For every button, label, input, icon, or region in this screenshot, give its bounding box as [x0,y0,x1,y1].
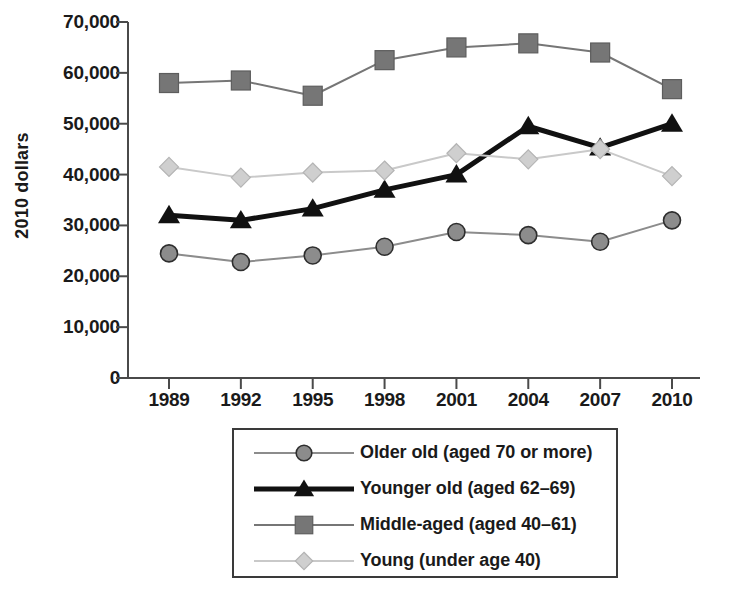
diamond-marker [295,552,312,569]
legend-item[interactable]: Middle-aged (aged 40–61) [234,506,616,543]
legend-sample-glyph [248,507,360,543]
diamond-marker [160,157,179,176]
circle-marker [448,224,465,241]
square-marker [519,34,538,53]
legend-swatch [248,507,360,543]
legend-label: Young (under age 40) [360,550,541,571]
square-marker [591,43,610,62]
circle-marker [376,238,393,255]
diamond-marker [303,163,322,182]
square-marker [231,71,250,90]
diamond-marker [591,140,610,159]
legend-item[interactable]: Younger old (aged 62–69) [234,470,616,507]
circle-marker [161,245,178,262]
square-marker [663,80,682,99]
legend-swatch [248,543,360,579]
chart-figure: 2010 dollars 70,00060,00050,00040,00030,… [0,0,737,591]
chart-legend: Older old (aged 70 or more)Younger old (… [232,428,618,578]
legend-swatch [248,471,360,507]
square-marker [295,516,312,533]
circle-marker [664,212,681,229]
circle-marker [520,227,537,244]
square-marker [375,51,394,70]
legend-label: Middle-aged (aged 40–61) [360,514,577,535]
triangle-marker [517,116,539,134]
legend-swatch [248,435,360,471]
legend-sample-glyph [248,471,360,507]
diamond-marker [375,161,394,180]
circle-marker [304,247,321,264]
diamond-marker [231,168,250,187]
square-marker [303,86,322,105]
legend-label: Younger old (aged 62–69) [360,478,575,499]
legend-sample-glyph [248,435,360,471]
triangle-marker [661,113,683,131]
circle-marker [296,445,312,461]
circle-marker [592,233,609,250]
diamond-marker [519,150,538,169]
legend-label: Older old (aged 70 or more) [360,442,592,463]
axis-spine [128,22,700,378]
legend-sample-glyph [248,543,360,579]
series-2 [160,34,682,105]
circle-marker [232,254,249,271]
diamond-marker [447,144,466,163]
square-marker [447,38,466,57]
diamond-marker [663,167,682,186]
legend-item[interactable]: Older old (aged 70 or more) [234,434,616,471]
square-marker [160,74,179,93]
series-1 [158,113,683,228]
legend-item[interactable]: Young (under age 40) [234,542,616,579]
